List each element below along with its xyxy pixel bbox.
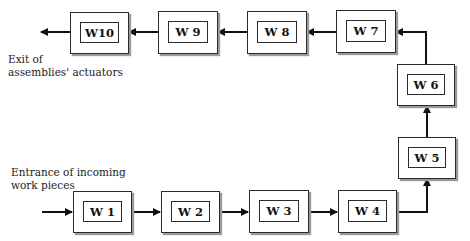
entrance-label-line1: Entrance of incoming <box>11 166 126 179</box>
workstation-w10: W10 <box>70 12 129 54</box>
workstation-w1-label: W 1 <box>83 201 122 222</box>
workstation-w7-label: W 7 <box>346 20 386 42</box>
exit-label: Exit of assemblies' actuators <box>8 53 123 79</box>
workstation-w3: W 3 <box>249 190 309 233</box>
workstation-w1: W 1 <box>73 191 132 233</box>
arrow-w6-w7 <box>396 32 426 64</box>
workstation-w5-label: W 5 <box>408 147 446 168</box>
workstation-w10-label: W10 <box>80 22 119 43</box>
entrance-label: Entrance of incoming work pieces <box>11 166 126 192</box>
workstation-w4-label: W 4 <box>348 200 387 222</box>
exit-label-line1: Exit of <box>8 53 123 66</box>
workstation-w7: W 7 <box>336 10 396 53</box>
arrow-w4-w5 <box>397 179 427 212</box>
workstation-w8-label: W 8 <box>257 21 297 43</box>
workstation-w9-label: W 9 <box>168 21 208 43</box>
workstation-w8: W 8 <box>247 11 307 54</box>
workstation-w5: W 5 <box>398 137 456 179</box>
workstation-w9: W 9 <box>158 11 218 54</box>
exit-label-line2: assemblies' actuators <box>8 66 123 79</box>
workstation-w2-label: W 2 <box>171 201 210 222</box>
workstation-w4: W 4 <box>338 190 397 233</box>
workstation-w6: W 6 <box>397 64 455 106</box>
workstation-w3-label: W 3 <box>259 200 299 222</box>
workstation-w6-label: W 6 <box>407 74 445 95</box>
workstation-w2: W 2 <box>161 191 220 233</box>
